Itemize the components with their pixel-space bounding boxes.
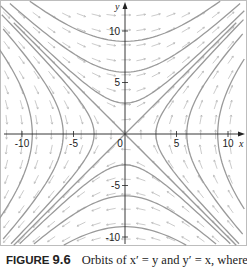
y-tick-label: 5: [114, 77, 120, 88]
y-tick-label: -5: [111, 180, 120, 191]
x-tick-label: 10: [222, 138, 234, 149]
x-tick-label: 0: [117, 138, 123, 149]
figure-label: FIGURE: [6, 254, 49, 266]
x-tick-label: -5: [69, 138, 78, 149]
caption-text: Orbits of x′ = y and y′ = x, where: [82, 253, 247, 267]
x-axis-label: x: [238, 138, 244, 149]
x-tick-label: 5: [174, 138, 180, 149]
figure-number: 9.6: [53, 252, 71, 267]
y-tick-label: -10: [106, 232, 121, 243]
figure-caption: FIGURE 9.6 Orbits of x′ = y and y′ = x, …: [6, 252, 247, 268]
y-axis-label: y: [114, 1, 120, 12]
y-tick-label: 10: [109, 26, 121, 37]
x-tick-label: -10: [15, 138, 30, 149]
phase-portrait-plot: -10-50510-10-5510xy: [0, 0, 247, 246]
